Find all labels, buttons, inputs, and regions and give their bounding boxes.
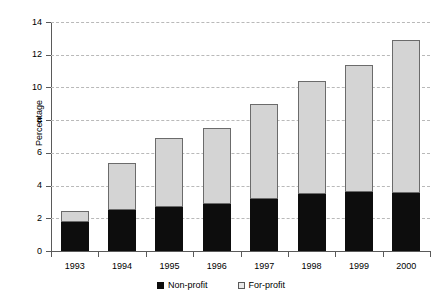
legend-item-non-profit[interactable]: Non-profit xyxy=(157,281,208,290)
x-tick-mark xyxy=(288,252,289,257)
bar-segment-for-profit[interactable] xyxy=(392,40,420,193)
bar-segment-non-profit[interactable] xyxy=(155,207,183,251)
bar-segment-non-profit[interactable] xyxy=(250,199,278,251)
bar-1994[interactable] xyxy=(108,163,136,251)
bar-segment-for-profit[interactable] xyxy=(108,163,136,210)
gridline xyxy=(51,120,430,121)
x-tick-mark xyxy=(335,252,336,257)
gridline xyxy=(51,153,430,154)
x-tick-mark xyxy=(146,252,147,257)
bar-segment-non-profit[interactable] xyxy=(392,193,420,251)
bar-segment-non-profit[interactable] xyxy=(108,210,136,251)
bar-segment-for-profit[interactable] xyxy=(203,128,231,204)
x-tick-label-2000: 2000 xyxy=(383,262,430,271)
bar-segment-non-profit[interactable] xyxy=(345,192,373,251)
bar-segment-non-profit[interactable] xyxy=(298,194,326,251)
stacked-bar-chart: Percentage 02468101214 19931994199519961… xyxy=(0,0,442,304)
legend-label: Non-profit xyxy=(168,281,208,290)
legend-swatch-dark-icon xyxy=(157,282,164,289)
bar-1998[interactable] xyxy=(298,81,326,251)
x-tick-mark xyxy=(98,252,99,257)
chart-legend: Non-profitFor-profit xyxy=(0,281,442,290)
x-tick-mark xyxy=(383,252,384,257)
legend-item-for-profit[interactable]: For-profit xyxy=(238,281,286,290)
bar-1993[interactable] xyxy=(61,211,89,251)
y-tick-label: 0 xyxy=(24,247,42,256)
x-tick-label-1999: 1999 xyxy=(335,262,382,271)
bar-1996[interactable] xyxy=(203,128,231,251)
x-tick-label-1993: 1993 xyxy=(51,262,98,271)
gridline xyxy=(51,55,430,56)
y-tick-label: 6 xyxy=(24,148,42,157)
bar-segment-non-profit[interactable] xyxy=(61,222,89,251)
gridline xyxy=(51,87,430,88)
y-tick-label: 2 xyxy=(24,214,42,223)
bar-segment-for-profit[interactable] xyxy=(61,211,89,222)
bar-segment-for-profit[interactable] xyxy=(298,81,326,194)
y-tick-label: 14 xyxy=(24,18,42,27)
bar-segment-non-profit[interactable] xyxy=(203,204,231,251)
y-tick-label: 10 xyxy=(24,83,42,92)
x-tick-label-1997: 1997 xyxy=(241,262,288,271)
y-tick-label: 8 xyxy=(24,116,42,125)
bar-1997[interactable] xyxy=(250,104,278,251)
x-tick-mark xyxy=(241,252,242,257)
y-tick-label: 12 xyxy=(24,50,42,59)
plot-area xyxy=(51,22,430,251)
gridline xyxy=(51,22,430,23)
x-tick-mark xyxy=(430,252,431,257)
x-tick-label-1995: 1995 xyxy=(146,262,193,271)
x-tick-mark xyxy=(193,252,194,257)
bar-segment-for-profit[interactable] xyxy=(345,65,373,193)
bar-1995[interactable] xyxy=(155,138,183,251)
x-tick-label-1996: 1996 xyxy=(193,262,240,271)
bar-1999[interactable] xyxy=(345,65,373,251)
x-tick-mark xyxy=(51,252,52,257)
bar-segment-for-profit[interactable] xyxy=(250,104,278,199)
legend-label: For-profit xyxy=(249,281,286,290)
legend-swatch-light-icon xyxy=(238,282,245,289)
bar-2000[interactable] xyxy=(392,40,420,251)
x-tick-label-1994: 1994 xyxy=(98,262,145,271)
bar-segment-for-profit[interactable] xyxy=(155,138,183,207)
x-tick-label-1998: 1998 xyxy=(288,262,335,271)
y-tick-label: 4 xyxy=(24,181,42,190)
